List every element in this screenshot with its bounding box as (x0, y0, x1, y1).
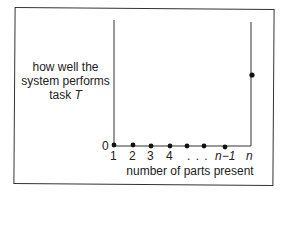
y-axis-label: how well the system performs task T (18, 60, 113, 102)
x-tick-n: n (246, 149, 253, 163)
x-tick-4: 4 (166, 149, 173, 163)
x-tick-n-minus-1: n−1 (215, 149, 235, 163)
x-axis-label: number of parts present (110, 164, 270, 178)
x-tick-2: 2 (129, 149, 136, 163)
x-tick-3: 3 (147, 149, 154, 163)
y-tick-zero: 0 (102, 139, 109, 153)
x-tick-1: 1 (110, 149, 117, 163)
data-points (112, 72, 255, 149)
x-tick-ellipsis: . . . (187, 149, 209, 163)
